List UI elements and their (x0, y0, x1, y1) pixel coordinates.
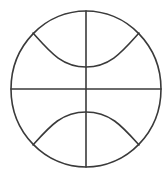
basketball-drawing (0, 0, 167, 179)
basketball-icon (0, 0, 167, 179)
